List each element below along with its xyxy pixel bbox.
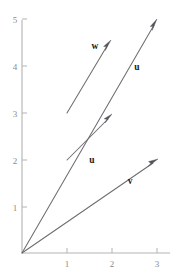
vector-w-shaft [67, 46, 107, 113]
y-tick-label-4: 4 [13, 62, 18, 72]
y-tick-label-5: 5 [13, 15, 18, 25]
vector-u-long-arrowhead [150, 19, 157, 30]
vector-u-long-label: u [134, 62, 140, 72]
x-tick-label-2: 2 [110, 259, 115, 269]
vector-u-translated-shaft [67, 119, 108, 160]
vector-w [67, 40, 111, 113]
y-tick-label-2: 2 [13, 156, 18, 166]
vector-w-label: w [92, 41, 99, 51]
axes-group [22, 20, 170, 253]
vector-v-label: v [128, 176, 133, 186]
vector-diagram-figure: 5 4 3 2 1 1 2 3 [0, 0, 174, 276]
vector-u-translated-label: u [89, 155, 95, 165]
y-tick-label-1: 1 [13, 203, 18, 213]
vector-u-translated [67, 114, 112, 160]
x-tick-label-3: 3 [155, 259, 160, 269]
y-tick-label-3: 3 [13, 109, 18, 119]
x-tick-label-1: 1 [65, 259, 70, 269]
vector-v-arrowhead [148, 159, 158, 167]
y-tick-group: 5 4 3 2 1 [13, 15, 27, 213]
x-tick-group: 1 2 3 [65, 248, 160, 269]
vector-u-long [22, 19, 157, 253]
plot-area: 5 4 3 2 1 1 2 3 [0, 0, 174, 276]
vector-v [22, 159, 158, 253]
vector-v-shaft [22, 163, 153, 253]
